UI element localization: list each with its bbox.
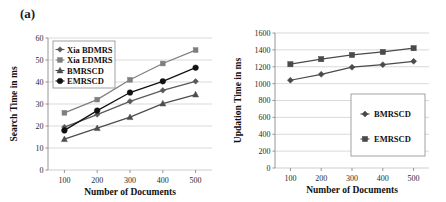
data-point-marker-square: [62, 110, 67, 115]
data-point-marker-diamond: [160, 88, 166, 94]
data-point-marker-circle: [62, 128, 68, 134]
data-point-marker-square: [95, 97, 100, 102]
legend-entry-label: EMRSCD: [374, 134, 411, 144]
legend-entry-label: Xia EDMRS: [67, 55, 113, 65]
y-axis-tick-label: 50: [36, 56, 44, 65]
data-point-marker-diamond: [287, 77, 293, 83]
y-axis-tick-label: 0: [267, 164, 271, 173]
x-axis-tick-label: 400: [377, 174, 389, 183]
y-axis-tick-label: 20: [36, 122, 44, 131]
x-axis-tick-label: 500: [190, 176, 202, 185]
legend-entry-label: Xia BDMRS: [67, 45, 113, 55]
y-axis-tick-label: 1600: [255, 29, 271, 38]
chart-panel-a: (a) 0102030405060100200300400500Number o…: [0, 0, 223, 202]
y-axis-tick-label: 800: [259, 96, 271, 105]
legend-box: [351, 94, 425, 156]
data-point-marker-circle: [127, 90, 133, 96]
data-point-marker-diamond: [127, 99, 133, 105]
data-point-marker-diamond: [318, 71, 324, 77]
y-axis-tick-label: 1200: [255, 63, 271, 72]
updation-time-chart: 0200400600800100012001400160010020030040…: [223, 0, 446, 202]
data-point-marker-square: [349, 52, 354, 57]
x-axis-tick-label: 200: [315, 174, 327, 183]
x-axis-tick-label: 100: [58, 176, 70, 185]
data-point-marker-square: [128, 77, 133, 82]
y-axis-tick-label: 30: [36, 100, 44, 109]
figure-container: (a) 0102030405060100200300400500Number o…: [0, 0, 446, 202]
data-point-marker-square: [193, 48, 198, 53]
data-point-marker-circle: [160, 79, 166, 85]
chart-panel-b: (b) 020040060080010001200140016001002003…: [223, 0, 446, 202]
legend-entry-label: EMRSCD: [67, 76, 104, 86]
data-point-marker-diamond: [411, 58, 417, 64]
x-axis-tick-label: 500: [408, 174, 420, 183]
y-axis-title: Search Time in ms: [9, 66, 19, 142]
x-axis-title: Number of Documents: [84, 187, 176, 197]
x-axis-tick-label: 400: [157, 176, 169, 185]
x-axis-tick-label: 100: [284, 174, 296, 183]
y-axis-tick-label: 40: [36, 78, 44, 87]
y-axis-tick-label: 400: [259, 130, 271, 139]
x-axis-title: Number of Documents: [306, 185, 398, 195]
y-axis-tick-label: 1000: [255, 80, 271, 89]
legend-entry-label: BMRSCD: [374, 109, 411, 119]
data-point-marker-circle: [94, 108, 100, 114]
x-axis-tick-label: 200: [91, 176, 103, 185]
data-point-marker-square: [380, 49, 385, 54]
y-axis-tick-label: 0: [40, 166, 44, 175]
y-axis-tick-label: 60: [36, 34, 44, 43]
data-point-marker-square: [288, 62, 293, 67]
data-point-marker-triangle: [193, 91, 199, 97]
y-axis-title: Updation Time in ms: [233, 57, 243, 143]
data-point-marker-square: [411, 46, 416, 51]
search-time-chart: 0102030405060100200300400500Number of Do…: [0, 0, 223, 202]
y-axis-tick-label: 200: [259, 147, 271, 156]
data-point-marker-square: [160, 61, 165, 66]
y-axis-tick-label: 1400: [255, 46, 271, 55]
data-point-marker-diamond: [193, 79, 199, 85]
y-axis-tick-label: 10: [36, 144, 44, 153]
data-point-marker-circle: [193, 65, 199, 71]
legend-entry-label: BMRSCD: [67, 66, 104, 76]
data-point-marker-diamond: [349, 64, 355, 70]
x-axis-tick-label: 300: [124, 176, 136, 185]
x-axis-tick-label: 300: [346, 174, 358, 183]
data-point-marker-square: [319, 57, 324, 62]
y-axis-tick-label: 600: [259, 113, 271, 122]
